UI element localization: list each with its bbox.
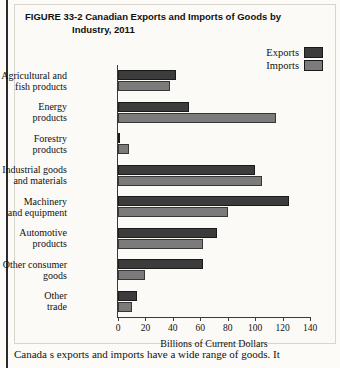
x-axis-tick [283,317,284,321]
bar-imports [118,270,145,280]
figure-container: FIGURE 33-2 Canadian Exports and Imports… [14,4,336,344]
x-axis-tick-label: 120 [275,323,289,333]
category-label: Energyproducts [0,101,67,123]
category-label-line: Other [0,290,67,301]
bar-exports [118,165,255,175]
legend-item-exports: Exports [266,47,323,58]
bar-imports [118,81,170,91]
bar-imports [118,176,262,186]
figure-page: FIGURE 33-2 Canadian Exports and Imports… [0,0,340,368]
bar-group [118,286,310,318]
bar-imports [118,207,228,217]
category-label-line: trade [0,301,67,312]
bar-imports [118,302,132,312]
category-label-line: products [0,112,67,123]
x-axis-tick [118,317,119,321]
x-axis-tick [173,317,174,321]
legend-label-exports: Exports [266,47,299,58]
category-label: Machineryand equipment [0,196,67,218]
x-axis-tick [145,317,146,321]
x-axis-tick [228,317,229,321]
bar-chart-plot: Billions of Current Dollars 020406080100… [118,65,310,317]
category-label: Automotiveproducts [0,227,67,249]
legend-swatch-exports [304,47,323,58]
category-label-line: Industrial goods [0,164,67,175]
figure-number: FIGURE 33-2 [25,11,83,22]
category-label-line: products [0,144,67,155]
x-axis-tick [310,317,311,321]
category-label-line: Automotive [0,227,67,238]
bar-exports [118,228,217,238]
figure-title-text: Canadian Exports and Imports of Goods by [85,11,281,22]
category-label-line: Agricultural and [0,70,67,81]
category-label-line: fish products [0,81,67,92]
category-label-line: Machinery [0,196,67,207]
category-label-line: Other consumer [0,259,67,270]
category-label-line: and materials [0,175,67,186]
category-label-line: goods [0,270,67,281]
category-label-line: Energy [0,101,67,112]
category-label: Other consumergoods [0,259,67,281]
x-axis-tick-label: 20 [141,323,151,333]
category-label: Industrial goodsand materials [0,164,67,186]
category-label-line: products [0,238,67,249]
figure-title-line1: FIGURE 33-2 Canadian Exports and Imports… [25,11,325,24]
figure-title-line2: Industry, 2011 [72,24,322,37]
bar-group [118,128,310,160]
x-axis-tick [255,317,256,321]
bar-group [118,254,310,286]
x-axis-tick-label: 40 [168,323,178,333]
category-label-line: and equipment [0,207,67,218]
x-axis-tick-label: 80 [223,323,233,333]
bar-group [118,160,310,192]
category-label: Agricultural andfish products [0,70,67,92]
category-label: Forestryproducts [0,133,67,155]
bar-exports [118,70,176,80]
bar-group [118,97,310,129]
figure-caption: Canada s exports and imports have a wide… [14,348,330,364]
bar-exports [118,102,189,112]
bar-exports [118,291,137,301]
x-axis-tick-label: 0 [116,323,121,333]
category-label: Othertrade [0,290,67,312]
bar-exports [118,133,120,143]
bar-exports [118,196,289,206]
bar-imports [118,239,203,249]
category-label-line: Forestry [0,133,67,144]
bar-imports [118,113,276,123]
bar-exports [118,259,203,269]
x-axis-tick-label: 60 [196,323,206,333]
x-axis-tick [200,317,201,321]
bar-group [118,191,310,223]
x-axis-tick-label: 140 [303,323,317,333]
bar-group [118,65,310,97]
x-axis-tick-label: 100 [248,323,262,333]
bar-imports [118,144,129,154]
bar-group [118,223,310,255]
